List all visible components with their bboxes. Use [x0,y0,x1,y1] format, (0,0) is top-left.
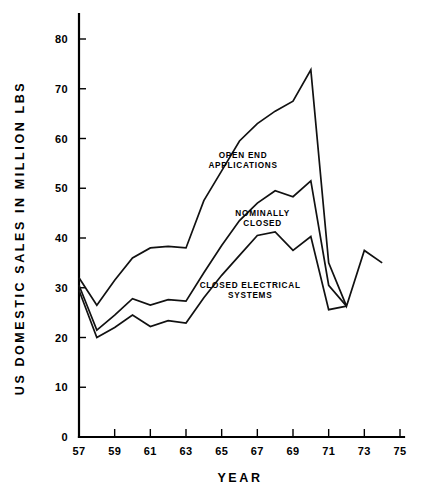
x-tick-label: 57 [72,445,85,457]
line-chart-svg: 0102030405060708057596163656769717375 OP… [0,0,424,497]
y-tick-label: 0 [61,431,68,443]
y-tick-label: 70 [55,83,68,95]
y-tick-label: 30 [55,282,68,294]
series-line [79,70,382,306]
tick-labels: 0102030405060708057596163656769717375 [55,33,407,457]
y-tick-label: 80 [55,33,68,45]
annotation-line: APPLICATIONS [208,161,277,170]
x-tick-label: 61 [144,445,157,457]
y-tick-label: 20 [55,332,68,344]
y-tick-label: 40 [55,232,68,244]
annotation-line: OPEN END [219,151,268,160]
y-tick-label: 50 [55,182,68,194]
x-tick-label: 59 [108,445,121,457]
x-tick-label: 65 [215,445,228,457]
series-line [79,181,347,330]
x-tick-label: 69 [286,445,299,457]
annotation-line: NOMINALLY [235,209,290,218]
series-annotation: CLOSED ELECTRICALSYSTEMS [200,281,301,300]
x-tick-label: 73 [358,445,371,457]
annotation-line: CLOSED ELECTRICAL [200,281,301,290]
x-tick-label: 71 [322,445,335,457]
x-tick-label: 63 [179,445,192,457]
annotation-line: CLOSED [243,219,282,228]
chart-figure: 0102030405060708057596163656769717375 OP… [0,0,424,497]
x-axis-title: YEAR [217,471,262,485]
y-tick-label: 10 [55,381,68,393]
y-axis-title: US DOMESTIC SALES IN MILLION LBS [13,81,27,395]
x-tick-label: 67 [251,445,264,457]
x-tick-label: 75 [393,445,406,457]
series-annotation: NOMINALLYCLOSED [235,209,290,228]
axes [79,14,404,437]
annotation-line: SYSTEMS [228,291,272,300]
series-annotation: OPEN ENDAPPLICATIONS [208,151,277,170]
y-tick-label: 60 [55,133,68,145]
series-annotations: OPEN ENDAPPLICATIONSNOMINALLYCLOSEDCLOSE… [200,151,301,299]
